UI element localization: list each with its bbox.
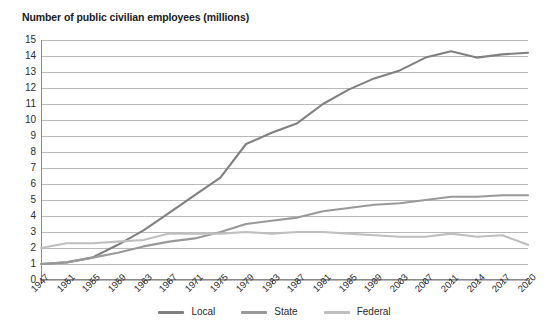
legend-swatch-icon (241, 311, 267, 314)
legend-label: Local (191, 307, 215, 317)
y-axis-tick-label: 6 (6, 179, 36, 189)
y-axis-tick-label: 1 (6, 259, 36, 269)
y-axis-tick-label: 13 (6, 67, 36, 77)
y-axis-tick-label: 4 (6, 211, 36, 221)
legend-item-federal[interactable]: Federal (324, 307, 391, 317)
legend-item-local[interactable]: Local (158, 307, 215, 317)
y-axis-tick-label: 5 (6, 195, 36, 205)
chart-container: Number of public civilian employees (mil… (0, 0, 549, 330)
y-axis-labels: 1514131211109876543210 (0, 40, 36, 280)
series-lines (41, 40, 528, 280)
legend-item-state[interactable]: State (241, 307, 297, 317)
legend-label: State (274, 307, 297, 317)
legend-label: Federal (357, 307, 391, 317)
chart-title: Number of public civilian employees (mil… (22, 11, 249, 23)
legend-swatch-icon (158, 311, 184, 314)
y-axis-tick-label: 11 (6, 99, 36, 109)
series-line-state (41, 195, 528, 264)
y-axis-tick-label: 8 (6, 147, 36, 157)
y-axis-tick-label: 15 (6, 35, 36, 45)
y-axis-tick-label: 3 (6, 227, 36, 237)
y-axis-tick-label: 12 (6, 83, 36, 93)
y-axis-tick-label: 14 (6, 51, 36, 61)
legend-swatch-icon (324, 311, 350, 314)
y-axis-tick-label: 7 (6, 163, 36, 173)
y-axis-tick-label: 2 (6, 243, 36, 253)
y-axis-tick-label: 10 (6, 115, 36, 125)
chart-legend: LocalStateFederal (0, 307, 549, 317)
y-axis-tick-label: 9 (6, 131, 36, 141)
x-axis-labels: 1947195119551959196319671971197519791983… (0, 284, 549, 324)
